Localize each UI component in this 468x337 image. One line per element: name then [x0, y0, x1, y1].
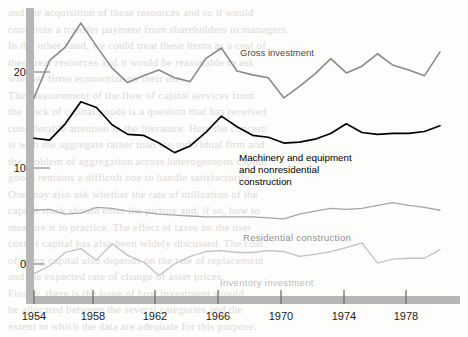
x-tick-label-1970: 1970 — [260, 310, 302, 322]
x-axis-bar — [26, 296, 460, 304]
series-label-residential-construction: Residential construction — [243, 232, 351, 244]
series-line-2 — [34, 203, 440, 219]
y-tick-label-0: 0 — [4, 258, 26, 270]
series-line-1 — [34, 102, 440, 153]
series-line-0 — [34, 23, 440, 98]
series-label-gross-investment: Gross investment — [240, 47, 314, 59]
x-tick-label-1978: 1978 — [385, 310, 427, 322]
x-tick-label-1974: 1974 — [323, 310, 365, 322]
x-tick-label-1954: 1954 — [13, 310, 55, 322]
x-tick-label-1962: 1962 — [134, 310, 176, 322]
series-label-inventory-investment: Inventory investment — [220, 277, 314, 289]
y-tick-label-20: 20 — [4, 66, 26, 78]
chart-series-group — [34, 23, 440, 275]
y-tick-marks — [34, 72, 50, 264]
chart-page: and the acquisition of these resources a… — [0, 0, 468, 337]
y-tick-label-10: 10 — [4, 162, 26, 174]
x-tick-label-1958: 1958 — [72, 310, 114, 322]
series-line-3 — [34, 243, 440, 276]
x-tick-label-1966: 1966 — [197, 310, 239, 322]
series-label-machinery-equipment: Machinery and equipment and nonresidenti… — [239, 152, 352, 187]
y-axis-bar — [26, 8, 34, 304]
